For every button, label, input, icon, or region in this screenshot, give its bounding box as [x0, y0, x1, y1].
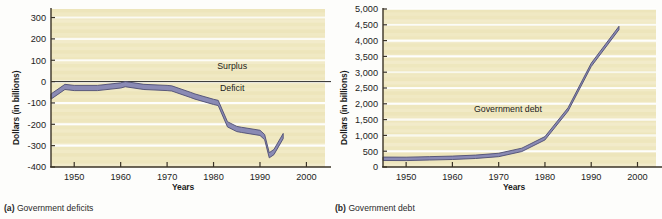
y-tick-label: 0: [41, 77, 46, 87]
panel-b-caption-text: Government debt: [348, 203, 414, 213]
y-axis-tick-labels: 5,0004,5004,0003,5003,0002,5002,0001,500…: [355, 4, 378, 172]
x-tick-label: 1960: [442, 172, 462, 182]
x-tick-label: 1990: [581, 172, 601, 182]
panel-a-caption: (a) Government deficits: [4, 203, 93, 213]
y-tick-label: 100: [31, 56, 46, 66]
y-tick-label: -400: [28, 162, 46, 172]
x-tick-label: 1990: [250, 172, 270, 182]
y-tick-label: -200: [28, 120, 46, 130]
x-tick-label: 1960: [110, 172, 130, 182]
panel-a-caption-tag: (a): [4, 203, 15, 213]
y-tick-label: 4,000: [355, 36, 378, 46]
x-tick-label: 1980: [203, 172, 223, 182]
y-tick-label: 1,500: [355, 115, 378, 125]
figure-government-deficits-and-debt: 3002001000-100-200-300-400 1950196019701…: [0, 0, 662, 219]
chart-a-canvas: 3002001000-100-200-300-400 1950196019701…: [0, 0, 331, 219]
chart-annotation: Deficit: [220, 83, 245, 93]
x-tick-label: 1950: [64, 172, 84, 182]
panel-b-caption-tag: (b): [335, 203, 346, 213]
chart-panel-b: 5,0004,5004,0003,5003,0002,5002,0001,500…: [331, 0, 662, 219]
panel-b-caption: (b) Government debt: [335, 203, 415, 213]
y-tick-label: 500: [363, 147, 378, 157]
y-tick-label: -300: [28, 141, 46, 151]
y-tick-label: 4,500: [355, 20, 378, 30]
x-axis-tick-labels: 195019601970198019902000: [396, 172, 648, 182]
y-tick-label: 0: [373, 162, 378, 172]
x-axis-tick-labels: 195019601970198019902000: [64, 172, 317, 182]
chart-panel-a: 3002001000-100-200-300-400 1950196019701…: [0, 0, 331, 219]
x-axis-title: Years: [503, 182, 525, 192]
chart-annotation: Surplus: [217, 61, 247, 71]
x-tick-label: 2000: [627, 172, 647, 182]
y-axis-title: Dollars (in billions): [11, 71, 21, 145]
y-axis-title: Dollars (in billions): [339, 71, 349, 145]
y-tick-label: 300: [31, 13, 46, 23]
chart-b-annotations: Government debt: [474, 104, 543, 114]
y-axis-tick-labels: 3002001000-100-200-300-400: [28, 13, 46, 172]
y-tick-label: -100: [28, 98, 46, 108]
x-tick-label: 1950: [396, 172, 416, 182]
x-tick-label: 1970: [157, 172, 177, 182]
chart-b-canvas: 5,0004,5004,0003,5003,0002,5002,0001,500…: [331, 0, 662, 219]
x-axis-title: Years: [172, 182, 194, 192]
x-tick-label: 1980: [535, 172, 555, 182]
x-tick-label: 1970: [488, 172, 508, 182]
y-tick-label: 5,000: [355, 4, 378, 14]
y-tick-label: 2,500: [355, 83, 378, 93]
y-tick-label: 3,500: [355, 52, 378, 62]
x-tick-label: 2000: [296, 172, 316, 182]
y-tick-label: 200: [31, 34, 46, 44]
chart-annotation: Government debt: [474, 104, 543, 114]
y-tick-label: 3,000: [355, 68, 378, 78]
panel-a-caption-text: Government deficits: [17, 203, 93, 213]
y-tick-label: 2,000: [355, 99, 378, 109]
y-tick-label: 1,000: [355, 131, 378, 141]
